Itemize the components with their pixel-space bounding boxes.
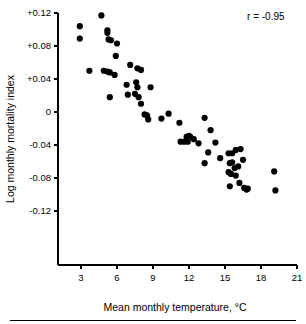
scatter-data-points xyxy=(77,12,279,193)
scatter-point xyxy=(238,146,244,152)
y-axis-tick-labels: +0.12+0.08+0.040-0.04-0.08-0.12 xyxy=(27,7,51,216)
x-tick-label: 18 xyxy=(256,272,267,283)
scatter-point xyxy=(205,149,211,155)
scatter-point xyxy=(104,30,110,36)
x-tick-label: 3 xyxy=(78,272,83,283)
y-tick-label: -0.04 xyxy=(29,139,51,150)
scatter-point xyxy=(202,160,208,166)
scatter-point xyxy=(233,172,239,178)
scatter-point xyxy=(240,157,246,163)
y-tick-label: +0.04 xyxy=(27,73,51,84)
scatter-point xyxy=(158,116,164,122)
x-tick-label: 21 xyxy=(292,272,303,283)
scatter-point xyxy=(108,37,114,43)
scatter-point xyxy=(138,67,144,73)
scatter-point xyxy=(229,159,235,165)
scatter-point xyxy=(212,139,218,145)
chart-annotations: r = -0.95 xyxy=(247,11,285,22)
scatter-point xyxy=(272,187,278,193)
scatter-point xyxy=(113,53,119,59)
chart-canvas: +0.12+0.08+0.040-0.04-0.08-0.12 36912151… xyxy=(0,0,306,324)
correlation-annotation: r = -0.95 xyxy=(247,11,285,22)
scatter-point xyxy=(127,62,133,68)
scatter-point xyxy=(107,94,113,100)
scatter-point xyxy=(114,40,120,46)
scatter-point xyxy=(176,120,182,126)
x-tick-label: 15 xyxy=(220,272,231,283)
scatter-plot-figure: +0.12+0.08+0.040-0.04-0.08-0.12 36912151… xyxy=(0,0,306,324)
scatter-point xyxy=(236,180,242,186)
y-tick-label: -0.08 xyxy=(29,172,51,183)
scatter-point xyxy=(196,140,202,146)
y-tick-label: +0.08 xyxy=(27,40,51,51)
scatter-point xyxy=(86,68,92,74)
scatter-point xyxy=(125,92,131,98)
scatter-point xyxy=(217,155,223,161)
scatter-point xyxy=(148,84,154,90)
scatter-point xyxy=(191,136,197,142)
scatter-point xyxy=(144,112,150,118)
scatter-point xyxy=(208,127,214,133)
y-axis-tick-marks xyxy=(54,13,58,211)
scatter-point xyxy=(227,183,233,189)
x-tick-label: 12 xyxy=(184,272,195,283)
x-axis-title: Mean monthly temperature, °C xyxy=(103,301,247,313)
x-axis-tick-labels: 36912151821 xyxy=(78,272,302,283)
y-tick-label: 0 xyxy=(46,106,51,117)
y-tick-label: -0.12 xyxy=(29,205,51,216)
x-tick-label: 6 xyxy=(114,272,119,283)
scatter-point xyxy=(136,94,142,100)
scatter-point xyxy=(138,101,144,107)
scatter-point xyxy=(134,84,140,90)
scatter-point xyxy=(77,23,83,29)
x-tick-label: 9 xyxy=(150,272,155,283)
y-tick-label: +0.12 xyxy=(27,7,51,18)
scatter-point xyxy=(166,111,172,117)
y-axis-title: Log monthly mortality index xyxy=(4,74,16,203)
x-axis-tick-marks xyxy=(81,265,297,269)
scatter-point xyxy=(245,186,251,192)
scatter-point xyxy=(124,82,130,88)
scatter-point xyxy=(98,12,104,18)
scatter-point xyxy=(271,168,277,174)
scatter-point xyxy=(235,163,241,169)
scatter-point xyxy=(77,35,83,41)
scatter-point xyxy=(202,115,208,121)
scatter-point xyxy=(112,72,118,78)
